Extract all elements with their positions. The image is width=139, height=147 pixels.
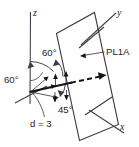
leader-left-60 xyxy=(31,73,43,81)
z-axis-line xyxy=(30,12,31,104)
dashed-normal-vector xyxy=(71,76,103,83)
tick-down-2-head xyxy=(64,95,69,100)
x-axis-label: x xyxy=(119,121,125,132)
engineering-figure: z y x 60° 60° 45° d = 3 PL1A xyxy=(0,0,139,147)
angle-left-60-label: 60° xyxy=(4,74,19,85)
z-axis-label: z xyxy=(32,7,37,18)
plane-tick-lower xyxy=(85,97,112,115)
angle-arc-group xyxy=(27,60,69,103)
distance-label: d = 3 xyxy=(30,118,52,129)
dashed-normal-arrowhead xyxy=(98,72,107,80)
plane-name-label: PL1A xyxy=(106,46,130,57)
tick-up-1-head xyxy=(53,74,58,79)
leader-pl1a xyxy=(83,52,105,56)
leader-distance xyxy=(33,93,45,117)
angle-lower-45-label: 45° xyxy=(58,104,73,115)
leader-pl1a-arrowhead xyxy=(80,53,86,58)
y-axis-label: y xyxy=(116,7,122,18)
figure-canvas: z y x 60° 60° 45° d = 3 PL1A xyxy=(0,0,139,147)
tick-down-1-head xyxy=(53,97,58,102)
angle-upper-60-label: 60° xyxy=(42,47,57,58)
